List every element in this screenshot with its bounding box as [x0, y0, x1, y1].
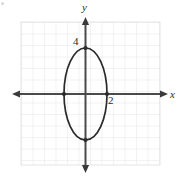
vertex-point-left — [62, 92, 66, 96]
y-axis-arrow-up-icon — [82, 17, 89, 25]
coordinate-plane-svg — [0, 0, 183, 178]
vertex-point-top — [83, 46, 87, 50]
x-axis-label: x — [170, 89, 175, 100]
ellipse-figure: x y 4 2 — [0, 0, 183, 178]
x-axis-arrow-left-icon — [12, 90, 20, 97]
x-intercept-tick-label-2: 2 — [108, 95, 114, 106]
y-axis-arrow-down-icon — [82, 165, 89, 173]
x-axis-arrow-right-icon — [160, 90, 168, 97]
y-intercept-tick-label-4: 4 — [73, 36, 79, 47]
y-axis-label: y — [82, 2, 87, 13]
vertex-point-bottom — [83, 138, 87, 142]
